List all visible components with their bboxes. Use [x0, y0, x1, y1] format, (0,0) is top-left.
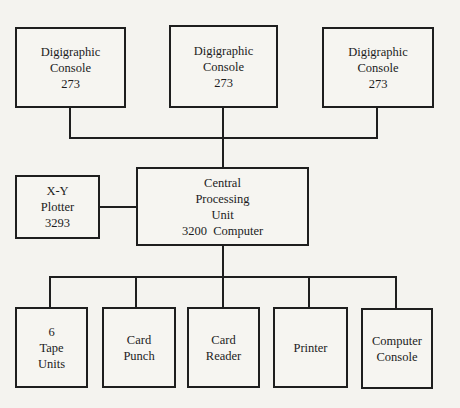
computer-console: Computer Console	[361, 308, 433, 389]
node-label-line: Console	[50, 60, 91, 76]
connector-tape	[49, 276, 51, 308]
node-label-line: Central	[204, 175, 241, 191]
connector-reader	[222, 276, 224, 308]
xy-plotter: X-Y Plotter 3293	[15, 175, 100, 239]
printer: Printer	[273, 307, 348, 388]
node-label-line: 273	[214, 75, 233, 91]
node-label-line: Processing	[195, 191, 249, 207]
tape-units: 6 Tape Units	[15, 307, 88, 388]
node-label-line: Card	[211, 332, 235, 348]
node-label-line: 273	[61, 76, 80, 92]
node-label-line: Units	[38, 356, 65, 372]
node-label-line: Plotter	[41, 199, 74, 215]
digigraphic-console-2: Digigraphic Console 273	[169, 25, 278, 108]
node-label-line: 273	[369, 76, 388, 92]
system-block-diagram: Digigraphic Console 273 Digigraphic Cons…	[0, 0, 460, 408]
node-label-line: 6	[48, 324, 54, 340]
node-label-line: Punch	[123, 348, 154, 364]
node-label-line: Card	[127, 332, 151, 348]
connector-console1	[69, 107, 71, 139]
connector-compconsole	[395, 276, 397, 309]
node-label-line: Digigraphic	[41, 44, 101, 60]
connector-punch	[135, 276, 137, 308]
node-label-line: Digigraphic	[348, 44, 408, 60]
connector-console3	[376, 107, 378, 139]
node-label-line: Digigraphic	[194, 43, 254, 59]
node-label-line: Tape	[39, 340, 63, 356]
node-label-line: 3293	[45, 215, 70, 231]
node-label-line: Unit	[211, 207, 233, 223]
central-processing-unit: Central Processing Unit 3200 Computer	[136, 167, 309, 246]
card-punch: Card Punch	[102, 307, 176, 388]
connector-printer	[308, 276, 310, 308]
digigraphic-console-3: Digigraphic Console 273	[322, 27, 434, 108]
node-label-line: 3200 Computer	[182, 223, 263, 239]
top-bus-line	[69, 137, 378, 139]
node-label-line: Computer	[372, 333, 422, 349]
node-label-line: Console	[358, 60, 399, 76]
node-label-line: Printer	[293, 340, 327, 356]
card-reader: Card Reader	[187, 307, 260, 388]
node-label-line: Reader	[206, 348, 241, 364]
node-label-line: Console	[203, 59, 244, 75]
connector-cpu-down	[222, 245, 224, 278]
connector-plotter	[99, 206, 137, 208]
node-label-line: X-Y	[46, 183, 68, 199]
node-label-line: Console	[377, 349, 418, 365]
digigraphic-console-1: Digigraphic Console 273	[15, 27, 126, 108]
